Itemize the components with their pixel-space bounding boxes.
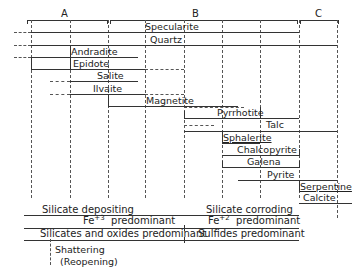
mineral-label: Pyrite xyxy=(267,169,294,180)
phase-label-c: C xyxy=(315,8,322,19)
shattering-line xyxy=(184,20,185,198)
legend-label: Shattering xyxy=(55,244,105,255)
mineral-label: Andradite xyxy=(71,46,118,57)
mineral-label: Ilvaite xyxy=(93,83,122,94)
stage-label-left: Silicate depositing xyxy=(42,204,134,215)
shattering-line xyxy=(31,20,32,198)
mineral-label: Galena xyxy=(247,156,281,167)
stage-label-right: Sulfides predominant xyxy=(198,228,305,239)
mineral-label: Calcite xyxy=(303,192,336,203)
shattering-line xyxy=(299,20,300,198)
mineral-label: Chalcopyrite xyxy=(237,144,297,155)
phase-label-b: B xyxy=(192,8,199,19)
mineral-label: Talc xyxy=(266,119,284,130)
legend-dashed-line-icon xyxy=(50,239,51,265)
mineral-label: Serpentine xyxy=(300,181,352,192)
mineral-label: Pyrrhotite xyxy=(217,107,264,118)
mineral-label: Epidote xyxy=(73,58,109,69)
stage-label-left: Fe+3 predominant xyxy=(83,215,175,226)
mineral-label: Salite xyxy=(97,70,124,81)
phase-label-a: A xyxy=(61,8,68,19)
mineral-label: Sphalerite xyxy=(223,132,272,143)
stage-label-left: Silicates and oxides predominant xyxy=(40,228,206,239)
shattering-line xyxy=(145,20,146,198)
stage-label-right: Fe+2 predominant xyxy=(208,215,300,226)
legend-sublabel: (Reopening) xyxy=(60,256,118,267)
mineral-label: Magnetite xyxy=(146,95,194,106)
mineral-label: Specularite xyxy=(145,21,199,32)
mineral-label: Quartz xyxy=(150,34,182,45)
